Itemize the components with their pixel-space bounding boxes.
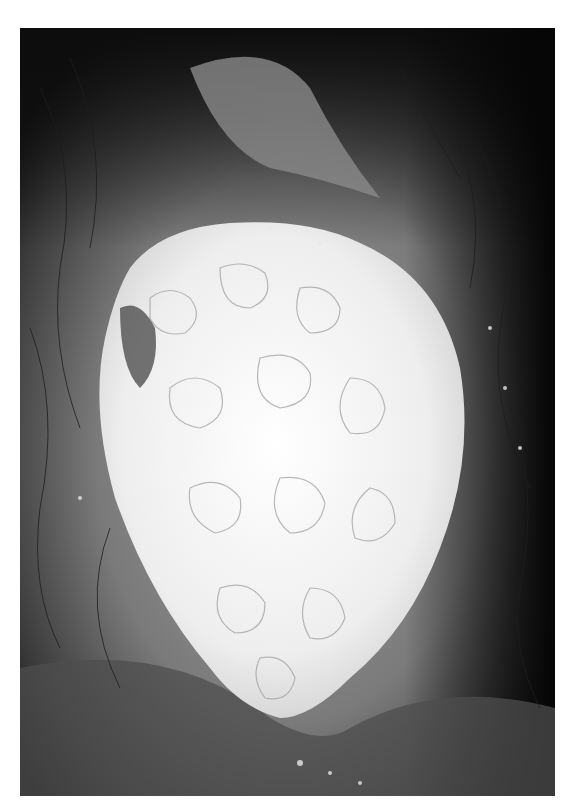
photograph-rendering xyxy=(20,28,555,796)
clinical-photograph xyxy=(20,28,555,796)
